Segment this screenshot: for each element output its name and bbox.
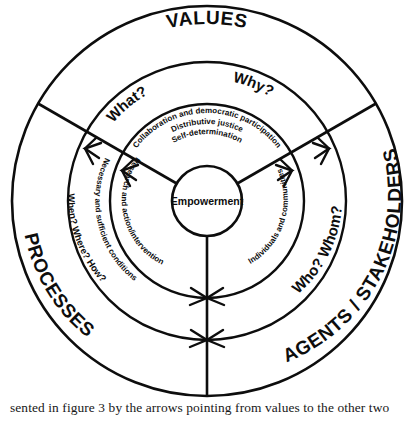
concentric-ring-diagram: VALUES PROCESSES AGENTS / STAKEHOLDERS W… <box>0 0 413 405</box>
page-caption-text: sented in figure 3 by the arrows pointin… <box>0 400 413 416</box>
label-agents-stakeholders: AGENTS / STAKEHOLDERS <box>280 146 406 366</box>
arrowhead-upper-right-outer <box>313 138 329 164</box>
arrowhead-upper-left-outer <box>85 138 101 164</box>
figure-container: VALUES PROCESSES AGENTS / STAKEHOLDERS W… <box>0 0 413 405</box>
label-individuals-communities: Individuals and communities <box>247 167 290 266</box>
label-empowerment-core: Empowerment <box>171 195 244 207</box>
label-values: VALUES <box>164 7 249 32</box>
spoke-upper-right <box>237 104 376 184</box>
label-why: Why? <box>232 68 277 99</box>
